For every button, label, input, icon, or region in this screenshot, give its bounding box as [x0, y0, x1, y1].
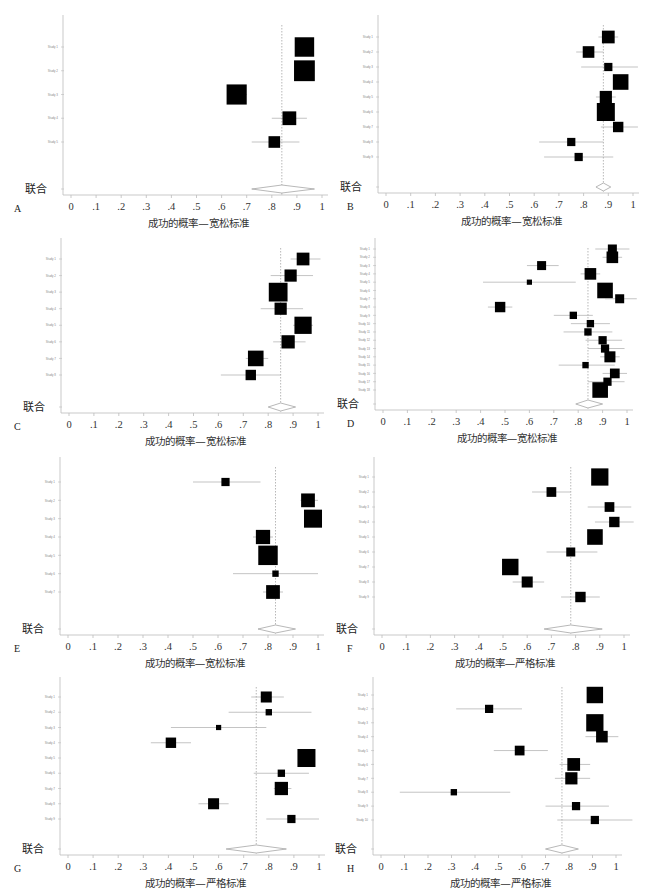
study-label: Study 9 [359, 595, 370, 599]
study-row: Study 17 [358, 378, 624, 386]
x-tick-label: .9 [589, 861, 597, 872]
point-estimate-box [584, 328, 591, 335]
x-tick-label: .7 [542, 861, 550, 872]
study-label: Study 5 [358, 749, 369, 753]
forest-plot-e: 0.1.2.3.4.5.6.7.8.91Study 1Study 2Study … [0, 445, 325, 667]
x-tick-label: .4 [477, 416, 486, 427]
study-label: Study 16 [358, 372, 370, 376]
x-tick-label: .8 [574, 416, 582, 427]
panel-letter: E [14, 643, 20, 654]
study-label: Study 6 [363, 110, 374, 114]
study-label: Study 6 [45, 572, 56, 576]
point-estimate-box [227, 84, 247, 104]
x-tick-label: .1 [90, 419, 98, 430]
point-estimate-box [295, 37, 314, 56]
point-estimate-box [294, 60, 315, 81]
x-tick-label: .7 [239, 641, 247, 652]
pooled-label: 联合 [337, 395, 359, 411]
x-tick-label: .6 [530, 199, 538, 210]
point-estimate-box [221, 478, 229, 486]
study-row: Study 6 [360, 283, 613, 299]
point-estimate-box [547, 487, 557, 497]
point-estimate-box [301, 493, 315, 507]
study-row: Study 2 [359, 487, 571, 497]
x-tick-label: .6 [518, 861, 526, 872]
x-tick-label: 0 [68, 201, 73, 212]
study-row: Study 9 [45, 815, 319, 823]
forest-plot-svg: 0.1.2.3.4.5.6.7.8.91Study 1Study 2Study … [0, 445, 325, 667]
x-tick-label: .6 [214, 641, 222, 652]
x-tick-label: .6 [523, 641, 531, 652]
study-row: Study 6 [45, 570, 318, 576]
x-tick-label: .6 [525, 416, 533, 427]
study-row: Study 6 [363, 103, 615, 121]
study-row: Study 5 [363, 91, 616, 103]
study-label: Study 6 [358, 763, 369, 767]
study-row: Study 3 [360, 261, 559, 270]
study-label: Study 3 [359, 505, 370, 509]
point-estimate-box [275, 782, 288, 795]
pooled-diamond [544, 625, 602, 633]
x-tick-label: .5 [499, 641, 507, 652]
study-label: Study 6 [359, 550, 370, 554]
x-tick-label: .6 [214, 419, 222, 430]
x-tick-label: .9 [599, 416, 607, 427]
pooled-diamond [546, 845, 579, 853]
x-tick-label: .4 [167, 201, 176, 212]
x-tick-label: 0 [378, 861, 383, 872]
study-label: Study 4 [360, 272, 371, 276]
study-row: Study 3 [363, 63, 638, 71]
x-tick-label: .2 [117, 201, 125, 212]
panel-letter: A [14, 203, 21, 214]
study-row: Study 5 [358, 746, 548, 756]
panel-letter: G [14, 863, 21, 874]
study-row: Study 8 [359, 576, 544, 587]
study-label: Study 7 [46, 357, 57, 361]
study-row: Study 6 [45, 770, 309, 777]
study-label: Study 12 [358, 338, 370, 342]
study-row: Study 1 [48, 37, 314, 56]
study-row: Study 2 [48, 60, 315, 81]
point-estimate-box [522, 576, 533, 587]
point-estimate-box [297, 253, 310, 266]
point-estimate-box [502, 559, 518, 575]
study-label: Study 2 [358, 707, 369, 711]
point-estimate-box [495, 302, 505, 312]
study-label: Study 3 [363, 65, 374, 69]
study-label: Study 8 [45, 802, 56, 806]
point-estimate-box [278, 770, 285, 777]
study-row: Study 1 [358, 687, 603, 703]
study-label: Study 8 [358, 790, 369, 794]
x-tick-label: .8 [565, 861, 573, 872]
study-row: Study 15 [358, 362, 615, 368]
study-row: Study 2 [358, 705, 522, 713]
x-tick-label: .3 [448, 861, 456, 872]
point-estimate-box [597, 283, 613, 299]
study-label: Study 8 [363, 140, 374, 144]
study-label: Study 4 [358, 735, 369, 739]
study-row: Study 5 [46, 317, 313, 334]
study-row: Study 7 [46, 351, 268, 367]
study-row: Study 4 [363, 74, 629, 90]
study-row: Study 4 [359, 517, 634, 527]
study-label: Study 5 [45, 756, 56, 760]
point-estimate-box [515, 746, 525, 756]
x-tick-label: .8 [580, 199, 588, 210]
study-row: Study 12 [358, 336, 622, 344]
point-estimate-box [586, 714, 603, 731]
x-tick-label: 1 [630, 199, 635, 210]
study-label: Study 1 [48, 45, 59, 49]
study-row: Study 3 [46, 283, 288, 302]
x-tick-label: .3 [142, 201, 150, 212]
point-estimate-box [587, 320, 594, 327]
study-label: Study 1 [45, 695, 56, 699]
study-row: Study 6 [359, 547, 598, 556]
forest-plot-svg: 0.1.2.3.4.5.6.7.8.91Study 1Study 2Study … [0, 665, 325, 887]
point-estimate-box [605, 502, 615, 512]
study-row: Study 2 [46, 269, 313, 281]
study-row: Study 4 [360, 268, 600, 280]
x-tick-label: 1 [621, 641, 626, 652]
point-estimate-box [604, 63, 612, 71]
x-tick-label: .3 [139, 861, 147, 872]
forest-plot-d: 0.1.2.3.4.5.6.7.8.91Study 1Study 2Study … [320, 230, 645, 452]
